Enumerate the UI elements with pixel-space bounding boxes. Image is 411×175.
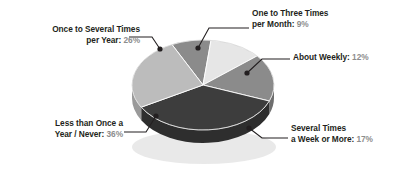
- callout-dot-never: [153, 113, 158, 118]
- callout-value-year: 26%: [124, 35, 140, 45]
- callout-dot-week: [246, 125, 251, 130]
- callout-label-year-line1: Once to Several Times: [52, 24, 140, 34]
- callout-value-week: 17%: [356, 134, 372, 144]
- callout-label-less-than-once-a-year-never: Less than Once a Year / Never: 36%: [55, 118, 123, 139]
- callout-label-week-line1: Several Times: [291, 123, 346, 133]
- callout-value-never: 36%: [107, 129, 123, 139]
- callout-label-once-to-several-times-per-year: Once to Several Times per Year: 26%: [52, 24, 140, 45]
- callout-value-weekly: 12%: [352, 52, 368, 62]
- callout-value-month: 9%: [297, 19, 309, 29]
- callout-dot-weekly: [244, 70, 249, 75]
- callout-label-month-line2: per Month:: [252, 19, 294, 29]
- callout-label-several-times-a-week-or-more: Several Times a Week or More: 17%: [291, 123, 373, 144]
- callout-label-never-line2: Year / Never:: [55, 129, 105, 139]
- callout-label-one-to-three-times-per-month: One to Three Times per Month: 9%: [252, 8, 328, 29]
- callout-dot-month: [195, 45, 200, 50]
- callout-label-week-line2: a Week or More:: [291, 134, 354, 144]
- callout-label-about-weekly: About Weekly: 12%: [293, 52, 369, 63]
- callout-label-never-line1: Less than Once a: [55, 118, 123, 128]
- pie-top-faces: [132, 40, 274, 130]
- callout-label-year-line2: per Year:: [86, 35, 121, 45]
- callout-label-month-line1: One to Three Times: [252, 8, 328, 18]
- callout-label-weekly-line1: About Weekly:: [293, 52, 350, 62]
- pie-chart: One to Three Times per Month: 9% Once to…: [0, 0, 411, 175]
- callout-dot-year: [157, 46, 162, 51]
